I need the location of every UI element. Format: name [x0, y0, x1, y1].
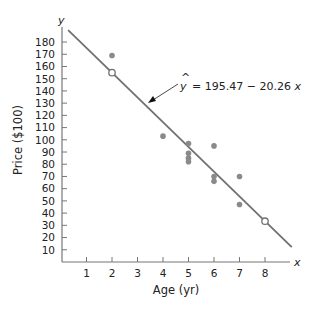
line-point-marker: [262, 218, 268, 224]
x-tick-label: 1: [83, 267, 90, 279]
axes: [62, 27, 290, 262]
data-point: [160, 133, 166, 139]
line-point-marker: [109, 69, 115, 75]
y-tick-label: 110: [35, 121, 55, 133]
y-tick-label: 170: [35, 48, 55, 60]
y-tick-label: 60: [42, 182, 55, 194]
x-axis-title: Age (yr): [153, 283, 199, 297]
y-tick-label: 120: [35, 109, 55, 121]
y-axis-variable: y: [57, 14, 65, 27]
data-point: [186, 150, 192, 156]
x-tick-label: 2: [109, 267, 116, 279]
y-tick-label: 10: [42, 244, 55, 256]
y-tick-label: 180: [35, 36, 55, 48]
y-tick-label: 20: [42, 231, 55, 243]
y-tick-label: 100: [35, 134, 55, 146]
y-tick-label: 90: [42, 146, 55, 158]
equation-body: = 195.47 − 20.26: [192, 80, 291, 93]
y-tick-label: 40: [42, 207, 55, 219]
regression-line: [68, 30, 292, 247]
data-point: [211, 174, 217, 180]
equation-x: x: [293, 80, 301, 93]
scatter-chart: 1020304050607080901001101201301401501601…: [0, 0, 314, 314]
data-point: [109, 53, 115, 59]
x-tick-label: 5: [185, 267, 192, 279]
x-tick-label: 4: [160, 267, 167, 279]
x-axis-variable: x: [293, 256, 301, 269]
data-point: [211, 143, 217, 149]
x-tick-label: 8: [262, 267, 269, 279]
y-tick-label: 50: [42, 195, 55, 207]
data-point: [237, 202, 243, 208]
y-axis-title: Price ($100): [11, 105, 25, 175]
data-point: [186, 141, 192, 147]
equation-text: y = 195.47 − 20.26 x: [179, 80, 301, 93]
x-tick-label: 6: [211, 267, 218, 279]
y-tick-label: 130: [35, 97, 55, 109]
y-tick-label: 30: [42, 219, 55, 231]
y-tick-label: 80: [42, 158, 55, 170]
data-point: [237, 174, 243, 180]
y-tick-label: 140: [35, 85, 55, 97]
y-tick-label: 150: [35, 73, 55, 85]
data-point: [211, 179, 217, 185]
arrow-head-icon: [148, 96, 156, 103]
x-tick-label: 7: [236, 267, 243, 279]
equation-yhat: y: [179, 80, 187, 93]
annotation-arrow-line: [153, 84, 178, 100]
y-tick-label: 160: [35, 60, 55, 72]
x-ticks: 12345678: [83, 257, 268, 279]
data-point: [186, 159, 192, 165]
x-tick-label: 3: [134, 267, 141, 279]
equation-annotation: ^ y = 195.47 − 20.26 x: [148, 71, 301, 103]
y-tick-label: 70: [42, 170, 55, 182]
